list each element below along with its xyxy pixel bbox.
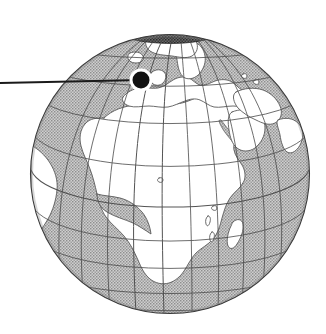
location-marker[interactable] bbox=[130, 69, 153, 92]
globe-figure: Shaded-relief style globe showing Africa… bbox=[0, 0, 326, 334]
marker-dot bbox=[133, 72, 150, 89]
island-speck-indian-a bbox=[212, 206, 218, 211]
globe-illustration bbox=[0, 0, 326, 334]
island-speck-indian-b bbox=[206, 216, 211, 226]
island-speck-indian-c bbox=[210, 232, 215, 242]
